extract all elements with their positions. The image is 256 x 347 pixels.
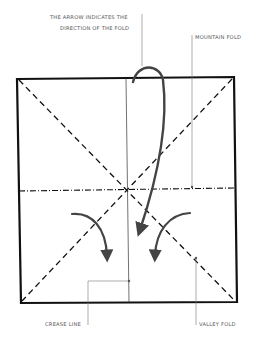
arrow-label-line1: THE ARROW INDICATES THE [50,14,128,21]
valley-fold-label: VALLEY FOLD [199,321,236,328]
mountain-fold-label: MOUNTAIN FOLD [195,34,241,41]
right-valley-arrow [155,213,190,256]
left-valley-arrow [72,214,107,256]
fold-direction-arrow [133,68,164,231]
arrow-label-line2: DIRECTION OF THE FOLD [60,25,129,32]
crease-line-label: CREASE LINE [45,321,81,328]
origami-diagram [0,0,256,347]
